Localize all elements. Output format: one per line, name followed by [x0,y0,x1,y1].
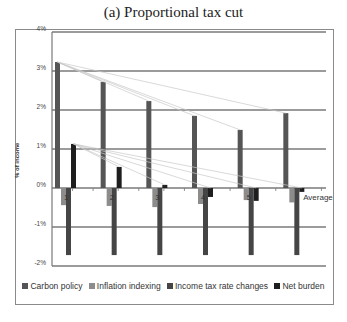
y-tick-label: 4% [37,25,47,32]
bar-carbon-policy [146,101,151,188]
trend-line [58,62,286,113]
x-tick-label: 4 [201,193,205,202]
legend-swatch [274,283,280,289]
y-tick-label: -2% [34,259,46,266]
bar-net-burden [299,188,304,192]
bar-carbon-policy [238,130,243,188]
y-tick-label: 1% [37,142,47,149]
legend-swatch [167,283,173,289]
trend-line [74,144,211,188]
y-tick-label: 3% [37,64,47,71]
x-tick-label: 2 [110,193,114,202]
y-tick-label: -1% [34,220,46,227]
bar-net-burden [117,167,122,188]
y-tick-label: 0% [37,181,47,188]
x-tick-label: Average [303,193,333,202]
bar-carbon-policy [55,62,60,188]
x-tick-label: 1 [64,193,68,202]
legend-item-income-tax-rate-changes: Income tax rate changes [167,281,268,291]
bar-net-burden [254,188,259,201]
bar-net-burden [162,185,167,188]
bar-carbon-policy [283,113,288,188]
legend-swatch [89,283,95,289]
y-tick-label: 2% [37,103,47,110]
legend-item-carbon-policy: Carbon policy [22,281,82,291]
x-tick-label: 3 [155,193,159,202]
bar-net-burden [208,188,213,197]
legend-swatch [22,283,28,289]
trend-line [58,62,195,116]
bar-inflation-indexing [289,188,294,202]
bar-net-burden [71,144,76,188]
legend-item-inflation-indexing: Inflation indexing [89,281,161,291]
bar-carbon-policy [192,116,197,188]
plot-area: 4%3%2%1%0%-1%-2%12345Average [0,0,347,322]
x-tick-label: 5 [247,193,251,202]
trend-line [74,144,302,188]
legend-item-net-burden: Net burden [274,281,324,291]
bar-income-tax-rate-changes [294,188,299,255]
legend: Carbon policy Inflation indexing Income … [0,281,347,291]
bar-carbon-policy [101,82,106,188]
